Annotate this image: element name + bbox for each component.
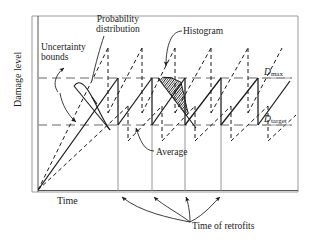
annotation-time-of-retrofits: Time of retrofits [192, 222, 254, 232]
annotation-uncertainty-bounds: Uncertainty bounds [41, 43, 86, 63]
leader-time-of-retrofits [122, 197, 220, 222]
leader-probability-distribution [92, 36, 104, 80]
threshold-label-dtarget: Dtarget [264, 115, 287, 126]
x-axis-label: Time [57, 196, 78, 207]
uncertainty-bound-upper [38, 48, 282, 190]
annotation-probability-distribution: Probability distribution [96, 15, 140, 35]
uncertainty-bounds-line-2: bounds [41, 53, 86, 63]
dtarget-symbol: D [264, 114, 271, 124]
threshold-label-dmax: Dmax [264, 68, 283, 79]
average-damage-curve [38, 78, 290, 190]
dmax-subscript: max [271, 70, 283, 78]
dmax-symbol: D [264, 67, 271, 77]
annotation-average: Average [156, 148, 187, 158]
leader-uncertainty-bounds [55, 68, 76, 122]
y-axis-label: Damage level [13, 39, 24, 119]
annotation-histogram: Histogram [183, 27, 223, 37]
figure-damage-level-vs-time: Damage level Time Uncertainty bounds Pro… [0, 0, 315, 247]
leader-average [136, 128, 154, 151]
probability-distribution-line-2: distribution [96, 25, 140, 35]
dtarget-subscript: target [271, 117, 287, 125]
